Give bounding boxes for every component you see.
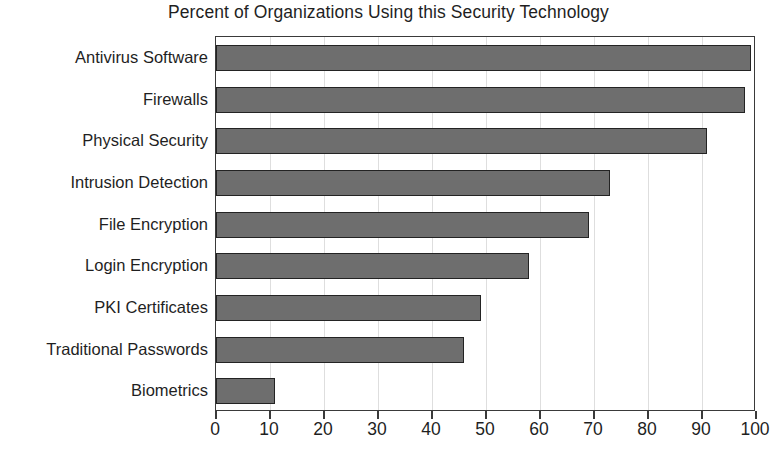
bar[interactable] xyxy=(216,253,529,279)
y-axis-label: Physical Security xyxy=(0,130,208,150)
x-axis-tick-label: 10 xyxy=(259,419,278,440)
bar[interactable] xyxy=(216,45,751,71)
bar[interactable] xyxy=(216,87,745,113)
x-axis-tick-label: 40 xyxy=(421,419,440,440)
y-axis-label: Firewalls xyxy=(0,89,208,109)
y-axis-label: Traditional Passwords xyxy=(0,339,208,359)
x-axis-tick-label: 0 xyxy=(210,419,220,440)
x-axis-tick-label: 80 xyxy=(637,419,656,440)
x-axis-tick xyxy=(701,411,703,419)
x-axis-tick-labels: 0102030405060708090100 xyxy=(0,419,777,449)
x-axis-tick-label: 100 xyxy=(740,419,769,440)
plot-area xyxy=(215,36,755,411)
x-axis-tick-label: 90 xyxy=(691,419,710,440)
x-axis-tick xyxy=(215,411,217,419)
x-axis-tick xyxy=(323,411,325,419)
x-axis-tick xyxy=(269,411,271,419)
x-axis-tick xyxy=(431,411,433,419)
x-axis-tick xyxy=(647,411,649,419)
x-axis-tick xyxy=(485,411,487,419)
y-axis-label: Biometrics xyxy=(0,380,208,400)
bars-layer xyxy=(216,37,754,410)
x-axis-tick-label: 30 xyxy=(367,419,386,440)
x-axis-tick-label: 20 xyxy=(313,419,332,440)
x-axis-tick-label: 60 xyxy=(529,419,548,440)
y-axis-label: PKI Certificates xyxy=(0,297,208,317)
y-axis-label: Intrusion Detection xyxy=(0,172,208,192)
bar[interactable] xyxy=(216,295,481,321)
x-axis-tick xyxy=(377,411,379,419)
bar[interactable] xyxy=(216,128,707,154)
x-axis-tick-label: 50 xyxy=(475,419,494,440)
chart-title: Percent of Organizations Using this Secu… xyxy=(0,2,777,23)
y-axis-label: Login Encryption xyxy=(0,255,208,275)
y-axis-label: Antivirus Software xyxy=(0,47,208,67)
bar[interactable] xyxy=(216,170,610,196)
x-axis-tick-label: 70 xyxy=(583,419,602,440)
bar-chart: Percent of Organizations Using this Secu… xyxy=(0,0,777,453)
bar[interactable] xyxy=(216,337,464,363)
bar[interactable] xyxy=(216,378,275,404)
bar[interactable] xyxy=(216,212,589,238)
x-axis-tick xyxy=(539,411,541,419)
x-axis-tick xyxy=(755,411,757,419)
x-axis-tick xyxy=(593,411,595,419)
y-axis-label: File Encryption xyxy=(0,214,208,234)
y-axis-category-labels: Antivirus SoftwareFirewallsPhysical Secu… xyxy=(0,36,208,411)
